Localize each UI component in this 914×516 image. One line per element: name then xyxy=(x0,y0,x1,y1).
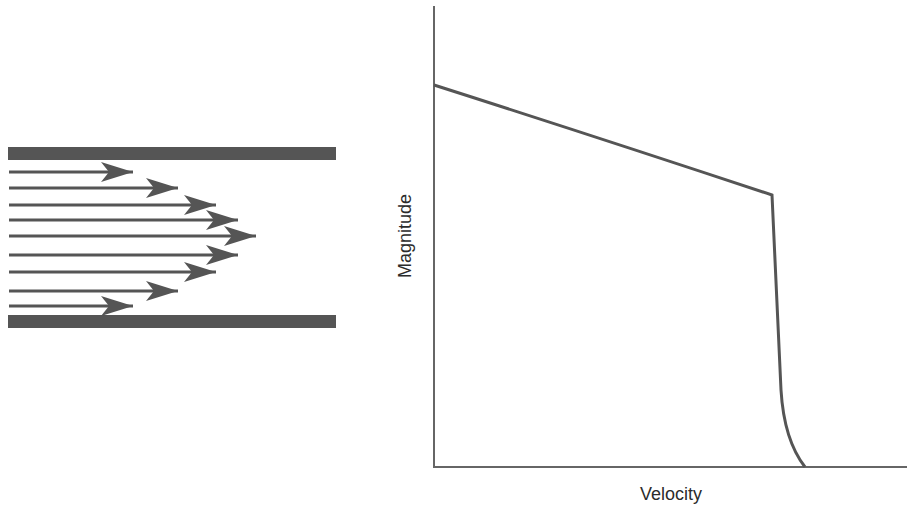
top-plate xyxy=(8,147,336,160)
magnitude-velocity-curve xyxy=(434,85,805,467)
flow-diagram xyxy=(0,0,914,516)
x-axis-label: Velocity xyxy=(640,484,702,505)
y-axis-label: Magnitude xyxy=(395,194,416,278)
velocity-arrows xyxy=(9,172,256,306)
bottom-plate xyxy=(8,315,336,328)
